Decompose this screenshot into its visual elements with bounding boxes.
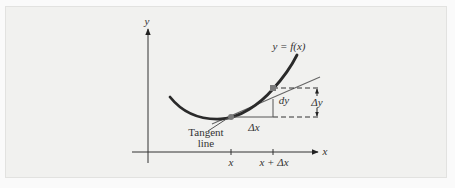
delta-x-label: Δx [247,121,259,133]
tick-x-label: x [228,156,234,168]
point-x-plus-dx [270,85,276,91]
x-axis-label: x [322,145,328,157]
curve-f [170,55,297,119]
delta-y-label: Δy [310,96,322,108]
y-axis-label: y [144,15,150,27]
curve-label: y = f(x) [271,40,305,53]
tangent-label-2: line [198,137,215,149]
point-x [228,114,234,120]
dy-label: dy [279,94,290,106]
differential-diagram: y x y = f(x) Tangent line dy Δy Δx x x +… [0,0,455,188]
tick-x-plus-dx-label: x + Δx [258,156,288,168]
